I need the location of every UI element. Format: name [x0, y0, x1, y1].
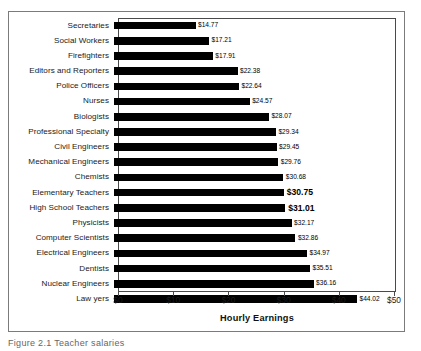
figure-container: Secretaries$14.77Social Workers$17.21Fir…: [0, 0, 421, 351]
bar: [114, 52, 213, 60]
bar: [114, 265, 310, 273]
x-tick-label: $40: [332, 296, 346, 304]
bar-value-label: $31.01: [288, 204, 314, 213]
bar: [114, 113, 269, 121]
bar-value-label: $14.77: [198, 22, 218, 29]
bar: [114, 219, 292, 227]
bar-row: Police Officers$22.64: [0, 79, 421, 94]
bar-row: Secretaries$14.77: [0, 18, 421, 33]
category-label: Secretaries: [0, 22, 114, 30]
bar-zone: $36.16: [114, 276, 392, 291]
bar-value-label: $29.34: [278, 129, 298, 136]
bar: [114, 83, 239, 91]
bar: [114, 128, 276, 136]
bar-row: Dentists$35.51: [0, 261, 421, 276]
category-label: Civil Engineers: [0, 143, 114, 151]
bar-zone: $29.45: [114, 140, 392, 155]
bar-row: Civil Engineers$29.45: [0, 140, 421, 155]
category-label: Nuclear Engineers: [0, 280, 114, 288]
bar-value-label: $17.91: [215, 53, 235, 60]
bar-row: Professional Specialty$29.34: [0, 124, 421, 139]
figure-caption: Figure 2.1 Teacher salaries: [8, 338, 408, 348]
bar-value-label: $29.76: [281, 159, 301, 166]
category-label: Nurses: [0, 97, 114, 105]
x-tick-label: $30: [277, 296, 291, 304]
bar-row: Mechanical Engineers$29.76: [0, 155, 421, 170]
bar-value-label: $22.64: [241, 83, 261, 90]
bar-value-label: $32.86: [298, 235, 318, 242]
category-label: Professional Specialty: [0, 128, 114, 136]
bar-zone: $24.57: [114, 94, 392, 109]
bar-value-label: $29.45: [279, 144, 299, 151]
bar: [114, 98, 250, 106]
bar-zone: $30.75: [114, 185, 392, 200]
bar-row: Nurses$24.57: [0, 94, 421, 109]
bar-row: Firefighters$17.91: [0, 48, 421, 63]
category-label: Social Workers: [0, 37, 114, 45]
bar: [114, 37, 209, 45]
bar: [114, 158, 278, 166]
bar-value-label: $32.17: [294, 220, 314, 227]
category-label: Editors and Reporters: [0, 67, 114, 75]
bar-row: Computer Scientists$32.86: [0, 231, 421, 246]
x-tick-label: $20: [221, 296, 235, 304]
category-label: Firefighters: [0, 52, 114, 60]
bar-rows-container: Secretaries$14.77Social Workers$17.21Fir…: [0, 18, 421, 292]
bar-value-label: $17.21: [212, 37, 232, 44]
category-label: Police Officers: [0, 82, 114, 90]
bar-zone: $22.64: [114, 79, 392, 94]
bar-zone: $34.97: [114, 246, 392, 261]
bar: [114, 174, 283, 182]
bar-zone: $17.91: [114, 48, 392, 63]
bar-zone: $28.07: [114, 109, 392, 124]
x-tick-label: $10: [166, 296, 180, 304]
bar-row: Nuclear Engineers$36.16: [0, 276, 421, 291]
bar: [114, 143, 277, 151]
x-axis-title: Hourly Earnings: [118, 313, 396, 323]
category-label: Electrical Engineers: [0, 249, 114, 257]
bar-value-label: $35.51: [313, 265, 333, 272]
bar-row: Biologists$28.07: [0, 109, 421, 124]
category-label: Elementary Teachers: [0, 189, 114, 197]
bar-value-label: $30.68: [286, 174, 306, 181]
bar-zone: $35.51: [114, 261, 392, 276]
bar-row: Editors and Reporters$22.38: [0, 64, 421, 79]
bar-row: Physicists$32.17: [0, 215, 421, 230]
bar-value-label: $34.97: [310, 250, 330, 257]
bar: [114, 234, 295, 242]
bar-value-label: $24.57: [252, 98, 272, 105]
bar-row: Social Workers$17.21: [0, 33, 421, 48]
bar: [114, 280, 314, 288]
bar-value-label: $22.38: [240, 68, 260, 75]
bar-zone: $29.34: [114, 124, 392, 139]
bar-zone: $22.38: [114, 64, 392, 79]
bar-row: Chemists$30.68: [0, 170, 421, 185]
bar: [114, 22, 196, 30]
bar: [114, 67, 238, 75]
bar-zone: $31.01: [114, 200, 392, 215]
bar-zone: $29.76: [114, 155, 392, 170]
category-label: Biologists: [0, 113, 114, 121]
category-label: Chemists: [0, 173, 114, 181]
bar-row: Electrical Engineers$34.97: [0, 246, 421, 261]
x-tick-label: $0: [113, 296, 122, 304]
x-tick-label: $50: [387, 296, 401, 304]
bar-row: High School Teachers$31.01: [0, 200, 421, 215]
bar-zone: $32.86: [114, 231, 392, 246]
bar-value-label: $36.16: [316, 280, 336, 287]
bar-zone: $17.21: [114, 33, 392, 48]
category-label: Computer Scientists: [0, 234, 114, 242]
category-label: Mechanical Engineers: [0, 158, 114, 166]
x-axis-tick-labels: $0$10$20$30$40$50: [0, 296, 421, 310]
bar: [114, 189, 284, 197]
bar-zone: $32.17: [114, 215, 392, 230]
bar-value-label: $30.75: [287, 188, 313, 197]
bar-row: Elementary Teachers$30.75: [0, 185, 421, 200]
category-label: Physicists: [0, 219, 114, 227]
bar: [114, 204, 285, 212]
category-label: Dentists: [0, 265, 114, 273]
bar: [114, 250, 307, 258]
bar-value-label: $28.07: [271, 113, 291, 120]
category-label: High School Teachers: [0, 204, 114, 212]
bar-zone: $30.68: [114, 170, 392, 185]
